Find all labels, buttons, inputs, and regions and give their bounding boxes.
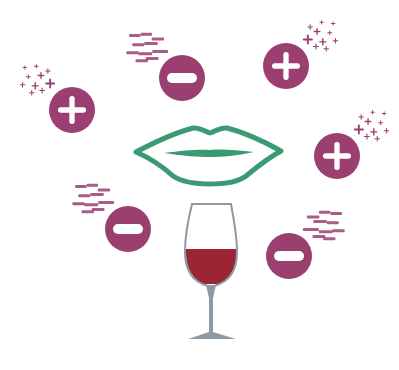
sparkle-trail bbox=[72, 184, 114, 213]
plus-badge-icon bbox=[20, 64, 95, 133]
sparkle-trail bbox=[354, 110, 389, 141]
plus-badge-icon bbox=[314, 110, 389, 179]
badges-group bbox=[20, 20, 389, 279]
minus-badge-icon bbox=[126, 33, 205, 101]
sparkle-trail bbox=[303, 20, 338, 51]
wine-glass-icon bbox=[185, 204, 237, 339]
plus-badge-icon bbox=[263, 20, 338, 89]
sparkle-trail bbox=[126, 33, 168, 62]
minus-badge-icon bbox=[72, 184, 151, 252]
sparkle-trail bbox=[20, 64, 55, 95]
sparkle-trail bbox=[303, 211, 345, 240]
illustration-canvas bbox=[0, 0, 399, 370]
wine-tasting-illustration: lips-icon wine-glass-icon bbox=[0, 0, 399, 370]
lips-icon bbox=[136, 128, 281, 184]
minus-badge-icon bbox=[266, 211, 345, 279]
